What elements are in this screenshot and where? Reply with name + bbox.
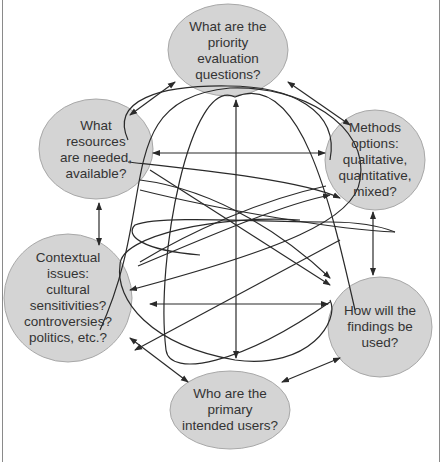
node-resources: What resources are needed, available? [40, 100, 152, 200]
node-intended-users: Who are the primary intended users? [170, 371, 290, 449]
node-methods-options: Methods options: qualitative, quantitati… [325, 110, 425, 210]
node-priority-questions: What are the priority evaluation questio… [168, 6, 288, 96]
curve-contextual-loop [120, 219, 332, 361]
line-resources-findings-diag [150, 170, 330, 285]
node-label: How will the findings be used? [344, 303, 416, 351]
node-label: What are the priority evaluation questio… [189, 19, 266, 83]
line-findings-contextual-diag [135, 240, 340, 350]
node-label: Methods options: qualitative, quantitati… [339, 120, 412, 200]
node-label: Contextual issues: cultural sensitivitie… [24, 250, 112, 346]
node-label: Who are the primary intended users? [182, 386, 278, 434]
node-contextual-issues: Contextual issues: cultural sensitivitie… [6, 236, 130, 360]
curve-resources-mid [128, 162, 340, 198]
node-findings-use: How will the findings be used? [328, 277, 432, 377]
node-label: What resources are needed, available? [60, 118, 132, 182]
curve-resources-findings [140, 180, 330, 278]
